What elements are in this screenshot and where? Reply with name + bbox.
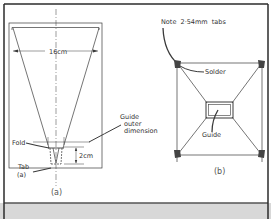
diagonal-bottom-right bbox=[232, 117, 261, 154]
figure-diagram: 16cm Fold Tab (a) 2cm Guide outer dimens… bbox=[0, 0, 271, 219]
solder-joint-icon bbox=[258, 60, 265, 68]
width-label: 16cm bbox=[49, 48, 67, 56]
tab-right-edge bbox=[61, 148, 62, 164]
arrow-left-icon bbox=[13, 50, 18, 53]
trapezoid-left-side bbox=[13, 28, 49, 148]
outer-frame bbox=[4, 4, 268, 219]
solder-joint-icon bbox=[174, 150, 181, 158]
trapezoid-right-side bbox=[63, 28, 99, 148]
guide-leader bbox=[89, 125, 121, 142]
guide-label: Guide bbox=[202, 131, 221, 139]
solder-joint-icon bbox=[174, 60, 181, 68]
guide-rect-inner bbox=[209, 105, 231, 116]
tab-leader bbox=[33, 168, 51, 172]
footer-band bbox=[0, 203, 271, 219]
panel-b-caption: (b) bbox=[214, 167, 225, 176]
diagonal-top-right bbox=[232, 64, 261, 103]
fold-leader bbox=[26, 143, 49, 148]
tab-left-edge bbox=[50, 148, 51, 164]
diagonal-top-left bbox=[178, 64, 207, 103]
panel-a bbox=[9, 9, 121, 186]
note-label: Note 2·54mm tabs bbox=[161, 18, 226, 26]
solder-joint-icon bbox=[258, 150, 265, 158]
tab-sub-label: (a) bbox=[17, 171, 26, 179]
solder-label: Solder bbox=[205, 68, 226, 76]
arrow-down-icon bbox=[75, 160, 77, 164]
tab-height-label: 2cm bbox=[79, 152, 93, 160]
guide-leader-b bbox=[212, 110, 218, 132]
panel-b bbox=[163, 28, 262, 162]
arrow-right-icon bbox=[93, 50, 98, 53]
arrow-up-icon bbox=[75, 148, 77, 152]
fold-label: Fold bbox=[12, 139, 25, 147]
note-leader bbox=[163, 28, 178, 64]
panel-a-caption: (a) bbox=[51, 188, 62, 197]
guide-label-line3: dimension bbox=[124, 127, 158, 135]
tab-label: Tab bbox=[17, 163, 29, 171]
